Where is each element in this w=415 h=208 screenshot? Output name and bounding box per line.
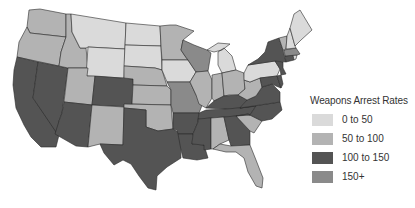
state-RI <box>293 55 297 60</box>
legend-item-100-150: 100 to 150 <box>310 148 415 167</box>
legend-swatch-150-plus <box>312 171 333 183</box>
legend-title: Weapons Arrest Rates <box>310 95 415 106</box>
state-CO <box>92 76 133 107</box>
legend-label: 50 to 100 <box>342 133 384 144</box>
legend-label: 100 to 150 <box>342 152 389 163</box>
state-WA <box>27 9 66 37</box>
map-legend: Weapons Arrest Rates 0 to 50 50 to 100 1… <box>310 95 415 186</box>
legend-item-0-50: 0 to 50 <box>310 110 415 129</box>
state-MI <box>207 43 236 73</box>
legend-swatch-100-150 <box>312 152 333 164</box>
state-MT <box>71 14 126 49</box>
legend-swatch-0-50 <box>312 114 333 126</box>
legend-swatch-50-100 <box>312 133 333 145</box>
state-WY <box>86 47 125 78</box>
legend-label: 0 to 50 <box>342 114 373 125</box>
legend-item-50-100: 50 to 100 <box>310 129 415 148</box>
state-ND <box>125 23 161 46</box>
state-KS <box>132 85 171 105</box>
state-FL <box>213 144 263 188</box>
state-NM <box>88 105 124 147</box>
state-ME <box>290 10 312 46</box>
legend-item-150-plus: 150+ <box>310 167 415 186</box>
legend-label: 150+ <box>342 171 365 182</box>
